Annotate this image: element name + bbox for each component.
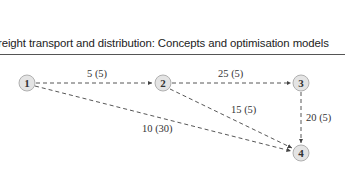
node-2: 2 bbox=[155, 75, 171, 91]
edge-label-2-4: 15 (5) bbox=[231, 104, 257, 116]
nodes: 1 2 3 4 bbox=[19, 75, 309, 161]
edge-label-2-3: 25 (5) bbox=[218, 68, 244, 80]
node-4: 4 bbox=[293, 145, 309, 161]
network-diagram: 5 (5) 25 (5) 15 (5) 20 (5) 10 (30) 1 2 3… bbox=[0, 0, 345, 171]
edges bbox=[35, 83, 301, 151]
edge-1-4 bbox=[35, 86, 291, 151]
node-label: 2 bbox=[160, 77, 166, 89]
node-label: 3 bbox=[298, 77, 304, 89]
edge-2-4 bbox=[170, 89, 292, 148]
node-label: 1 bbox=[24, 77, 30, 89]
edge-label-1-2: 5 (5) bbox=[87, 68, 108, 80]
edge-label-1-4: 10 (30) bbox=[142, 123, 173, 135]
edge-label-3-4: 20 (5) bbox=[306, 112, 332, 124]
node-label: 4 bbox=[298, 147, 304, 159]
node-1: 1 bbox=[19, 75, 35, 91]
node-3: 3 bbox=[293, 75, 309, 91]
